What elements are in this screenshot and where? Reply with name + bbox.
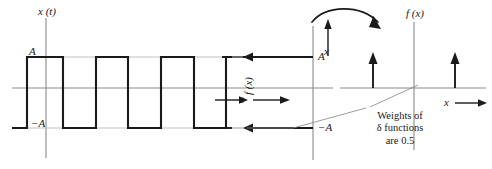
middle-level-bottom-label: −A (318, 122, 332, 133)
right-x-axis-arrow (455, 99, 487, 106)
annotation-line-2: δ functions (357, 122, 443, 134)
annotation-line-3: are 0.5 (357, 135, 443, 147)
left-x-axis-label: t (241, 94, 244, 105)
middle-t-arrow (253, 96, 290, 103)
middle-level-top-label: A (318, 51, 325, 62)
left-amplitude-bottom-label: −A (31, 118, 45, 129)
delta-impulse-right (451, 52, 460, 88)
signal-transformation-figure: x (t) A −A t f (x) x A −A f (x) x Weight… (0, 0, 492, 169)
left-amplitude-top-label: A (29, 46, 36, 57)
left-plot-axes (12, 18, 247, 158)
middle-function-label: f (x) (243, 77, 254, 95)
annotation-line-1: Weights of (357, 110, 443, 122)
left-y-axis-label: x (t) (38, 6, 56, 17)
left-square-wave-trace (12, 57, 248, 128)
middle-plot-axes (248, 26, 333, 160)
level-arrow-positive (222, 52, 313, 61)
right-x-axis-label: x (444, 97, 449, 108)
transfer-curved-arrow (312, 9, 381, 29)
delta-weights-annotation: Weights of δ functions are 0.5 (357, 110, 443, 147)
delta-impulse-left (369, 52, 378, 88)
right-y-axis-label: f (x) (406, 8, 424, 19)
